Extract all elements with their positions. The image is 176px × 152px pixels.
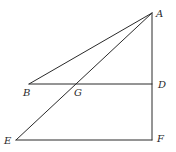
label-f: F — [156, 133, 165, 144]
label-e: E — [3, 135, 12, 146]
label-a: A — [155, 8, 163, 19]
segment-ab — [29, 13, 152, 84]
label-b: B — [22, 87, 30, 98]
label-g: G — [74, 87, 82, 98]
segment-ae — [16, 13, 152, 140]
geometry-diagram: A B G D E F — [0, 0, 176, 152]
label-d: D — [157, 79, 166, 90]
